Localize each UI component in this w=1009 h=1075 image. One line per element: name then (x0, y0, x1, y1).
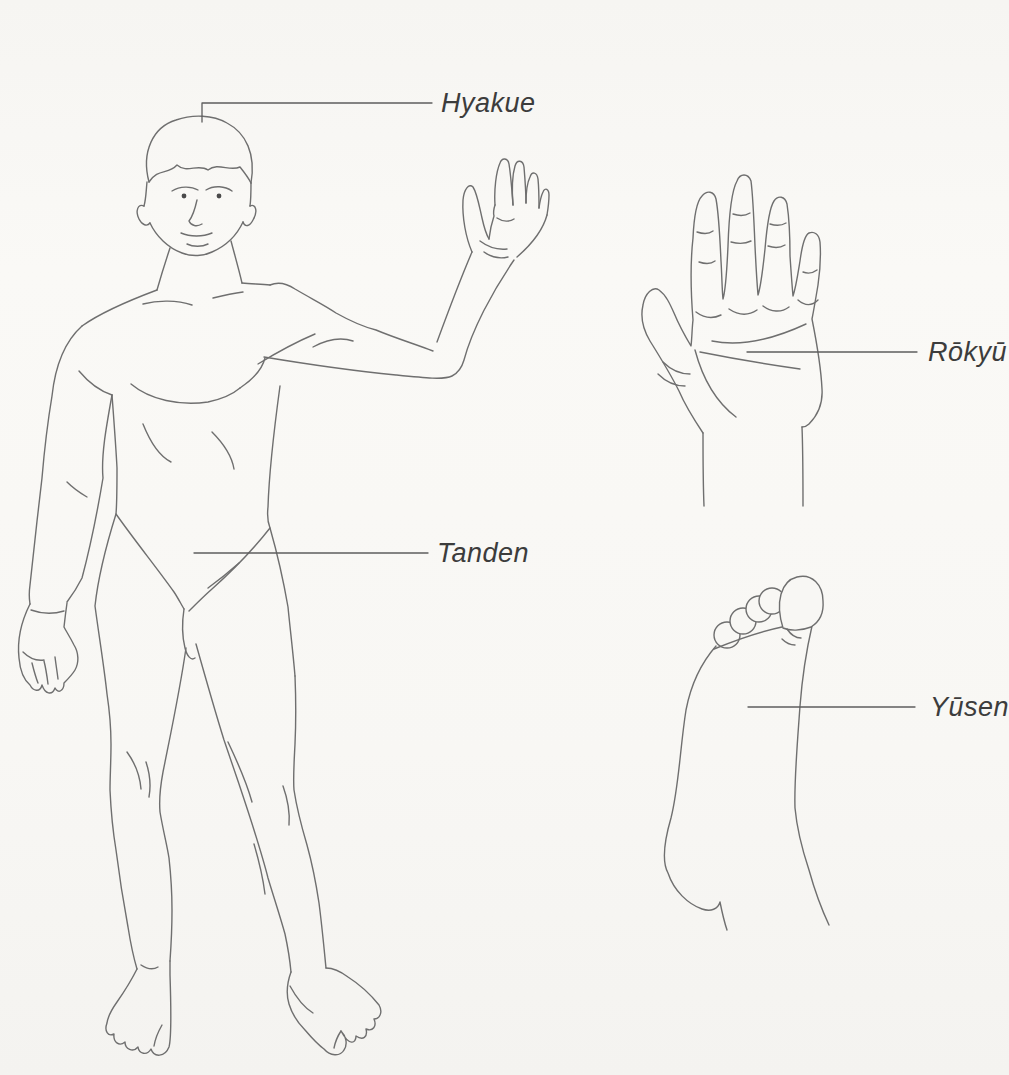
raised-open-hand (463, 159, 549, 258)
left-hand (19, 603, 78, 693)
paper-speck (886, 492, 890, 496)
left-leg-inner (160, 648, 186, 961)
heart-line (712, 324, 806, 343)
right-eyebrow (206, 187, 232, 191)
left-arm-outer (29, 326, 82, 604)
left-eye (182, 194, 187, 199)
right-ear (243, 205, 256, 225)
right-kneecap (283, 786, 289, 825)
right-calf-line (254, 844, 265, 894)
label-yusen: Yūsen (930, 693, 1009, 721)
full-body-figure (19, 116, 549, 1055)
label-tanden: Tanden (437, 539, 529, 567)
head-hair (147, 116, 253, 183)
life-line (695, 350, 736, 417)
left-knee-line (127, 752, 141, 789)
right-inguinal-line (189, 528, 270, 611)
pubic-line (208, 563, 239, 588)
left-arm-inner (67, 395, 112, 602)
left-deltoid-groove (79, 371, 112, 395)
head-line (700, 352, 800, 369)
right-leg-inner (196, 644, 291, 972)
foot-left-edge (664, 646, 727, 930)
forearm-edge (437, 252, 472, 342)
torso-right-edge (268, 386, 295, 676)
torso-left-edge-hip-thigh (95, 395, 137, 969)
wrist-left-line (703, 433, 704, 506)
right-leg-outer (294, 676, 326, 968)
groin-center (183, 609, 195, 659)
right-eye (217, 194, 222, 199)
elbow-crease (67, 482, 87, 497)
left-foot (106, 961, 171, 1055)
right-clavicle (213, 292, 243, 298)
left-oblique (143, 424, 171, 462)
jaw-chin (150, 222, 243, 256)
wrist-right-line (802, 427, 803, 506)
foot-sole-figure (664, 576, 829, 930)
big-toe (779, 576, 823, 630)
right-foot (287, 968, 381, 1055)
left-inguinal-line (116, 514, 184, 609)
toe-crease (782, 639, 795, 645)
raised-arm-bottom-edge (264, 260, 514, 378)
label-rokyu: Rōkyū (928, 338, 1007, 366)
palm-figure (642, 175, 822, 506)
label-hyakue: Hyakue (441, 89, 536, 117)
palm-outline (642, 175, 822, 433)
left-eyebrow (172, 187, 198, 191)
chest-line (131, 384, 240, 403)
right-knee-line (228, 742, 252, 802)
pec-delt-groove (258, 334, 315, 364)
left-kneecap (146, 762, 150, 797)
nose (189, 200, 202, 226)
left-clavicle (143, 301, 192, 305)
left-ear (137, 205, 150, 225)
biceps-line (313, 339, 353, 347)
hair-fringe (149, 165, 251, 183)
hyakue-leader-line (202, 103, 432, 122)
mouth (181, 233, 212, 236)
foot-right-edge (795, 626, 829, 925)
paper-speck (143, 15, 148, 20)
right-oblique (212, 432, 234, 469)
lower-lip (187, 244, 208, 246)
